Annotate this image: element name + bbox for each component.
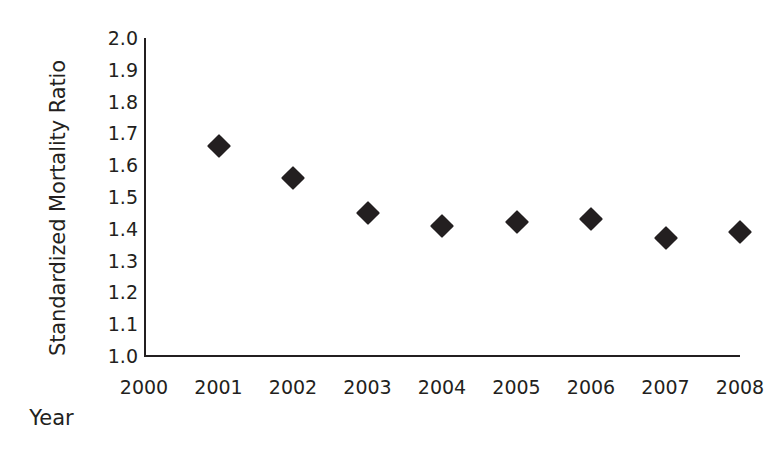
chart-figure: Standardized Mortality Ratio 2.01.91.81.… (0, 0, 777, 449)
x-tick-label: 2006 (551, 376, 631, 398)
y-tick-label: 1.7 (94, 124, 138, 143)
data-point-marker (504, 210, 528, 234)
y-tick-label: 1.4 (94, 220, 138, 239)
y-tick-label: 1.8 (94, 93, 138, 112)
data-point-marker (653, 226, 677, 250)
x-axis-title-text: Year (29, 406, 73, 430)
data-point-marker (579, 207, 603, 231)
x-tick-label: 2000 (104, 376, 184, 398)
y-tick-label: 1.1 (94, 315, 138, 334)
y-tick-label: 2.0 (94, 29, 138, 48)
x-tick-label: 2005 (477, 376, 557, 398)
x-axis-tick-labels: 200020012002200320042005200620072008 (0, 376, 777, 402)
data-point-marker (728, 220, 752, 244)
y-tick-label: 1.6 (94, 156, 138, 175)
y-tick-label: 1.0 (94, 347, 138, 366)
x-tick-label: 2003 (328, 376, 408, 398)
x-tick-label: 2008 (700, 376, 777, 398)
data-point-marker (281, 166, 305, 190)
data-point-marker (206, 134, 230, 158)
y-tick-label: 1.9 (94, 61, 138, 80)
x-axis-title: Year (0, 406, 777, 430)
y-tick-label: 1.2 (94, 283, 138, 302)
data-point-marker (355, 201, 379, 225)
x-tick-label: 2001 (179, 376, 259, 398)
y-tick-label: 1.3 (94, 252, 138, 271)
data-point-marker (430, 214, 454, 238)
x-tick-label: 2002 (253, 376, 333, 398)
x-tick-label: 2004 (402, 376, 482, 398)
x-tick-label: 2007 (626, 376, 706, 398)
plot-area (144, 38, 740, 356)
y-axis-title: Standardized Mortality Ratio (46, 38, 70, 378)
y-tick-label: 1.5 (94, 188, 138, 207)
